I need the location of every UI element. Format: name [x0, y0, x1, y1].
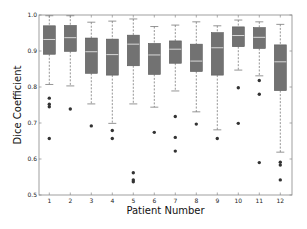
outlier-point — [48, 96, 51, 99]
outlier-point — [258, 93, 261, 96]
outlier-point — [111, 137, 114, 140]
x-tick-label: 1 — [47, 197, 51, 204]
box-patient-9 — [211, 26, 223, 140]
outlier-point — [258, 79, 261, 82]
iqr-box — [127, 35, 139, 66]
iqr-box — [211, 33, 223, 75]
x-tick-label: 12 — [276, 197, 284, 204]
x-tick-label: 3 — [89, 197, 93, 204]
box-patient-7 — [169, 25, 181, 153]
y-tick-label: 0.7 — [27, 119, 37, 126]
box-patient-12 — [274, 24, 286, 181]
box-patient-10 — [232, 20, 244, 125]
iqr-box — [43, 26, 55, 54]
box-patient-4 — [106, 21, 118, 140]
box-patient-1 — [43, 16, 55, 140]
y-tick-label: 0.8 — [27, 83, 37, 90]
outlier-point — [258, 161, 261, 164]
outlier-point — [90, 124, 93, 127]
box-patient-3 — [85, 22, 97, 127]
y-tick-label: 0.5 — [27, 191, 37, 198]
outlier-point — [195, 122, 198, 125]
y-axis-label: Dice Coefficient — [12, 65, 23, 144]
box-patient-6 — [148, 27, 160, 135]
box-patient-5 — [127, 19, 139, 183]
x-tick-label: 10 — [234, 197, 242, 204]
outlier-point — [174, 115, 177, 118]
outlier-point — [111, 129, 114, 132]
outlier-point — [153, 131, 156, 134]
plot-boxes — [43, 16, 286, 184]
iqr-box — [169, 41, 181, 63]
outlier-point — [132, 171, 135, 174]
iqr-box — [232, 27, 244, 47]
x-tick-label: 7 — [173, 197, 177, 204]
x-tick-label: 2 — [68, 197, 72, 204]
iqr-box — [64, 25, 76, 51]
outlier-point — [279, 178, 282, 181]
outlier-point — [174, 136, 177, 139]
outlier-point — [237, 122, 240, 125]
x-tick-label: 4 — [110, 197, 114, 204]
outlier-point — [48, 137, 51, 140]
x-axis-ticks: 123456789101112 — [47, 15, 284, 204]
outlier-point — [237, 86, 240, 89]
y-tick-label: 1.0 — [27, 11, 37, 18]
box-patient-8 — [190, 22, 202, 126]
x-axis-label: Patient Number — [126, 205, 205, 216]
y-tick-label: 0.6 — [27, 155, 37, 162]
iqr-box — [106, 39, 118, 75]
y-tick-label: 0.9 — [27, 47, 37, 54]
x-tick-label: 6 — [152, 197, 156, 204]
box-patient-11 — [253, 22, 265, 164]
outlier-point — [132, 180, 135, 183]
outlier-point — [48, 105, 51, 108]
iqr-box — [190, 44, 202, 71]
box-patient-2 — [64, 16, 76, 111]
iqr-box — [148, 43, 160, 74]
x-tick-label: 9 — [215, 197, 219, 204]
outlier-point — [174, 149, 177, 152]
iqr-box — [274, 45, 286, 91]
outlier-point — [216, 137, 219, 140]
x-tick-label: 11 — [255, 197, 263, 204]
x-tick-label: 8 — [194, 197, 198, 204]
iqr-box — [85, 38, 97, 73]
x-tick-label: 5 — [131, 197, 135, 204]
outlier-point — [279, 163, 282, 166]
box-plot-chart: 0.50.60.70.80.91.0 123456789101112 Patie… — [0, 0, 307, 229]
outlier-point — [69, 107, 72, 110]
iqr-box — [253, 28, 265, 49]
